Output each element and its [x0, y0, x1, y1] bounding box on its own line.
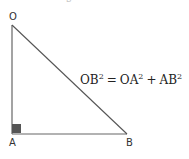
cut-off-fragment: B — [66, 0, 72, 4]
vertex-label-b: B — [126, 137, 133, 148]
pythagorean-equation: OB2=OA2+AB2 — [80, 72, 182, 87]
eq-equals: = — [107, 73, 117, 87]
eq-lhs: OB — [80, 73, 99, 87]
eq-term1-exp: 2 — [138, 72, 143, 81]
triangle-diagram: B O A B OB2=OA2+AB2 — [0, 0, 189, 159]
vertex-label-a: A — [9, 137, 16, 148]
right-angle-marker — [12, 124, 21, 133]
eq-term2: AB — [158, 73, 177, 87]
vertex-label-o: O — [9, 11, 17, 22]
eq-term2-exp: 2 — [177, 72, 182, 81]
eq-plus: + — [146, 73, 156, 87]
eq-lhs-exp: 2 — [99, 72, 104, 81]
eq-term1: OA — [120, 73, 139, 87]
